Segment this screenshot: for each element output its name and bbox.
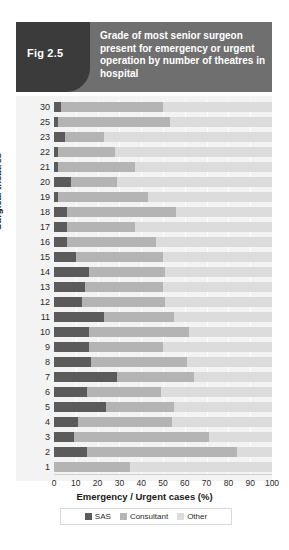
bar-segment-other [163, 342, 272, 352]
bar-row [54, 312, 272, 322]
bar-segment-sas [54, 342, 89, 352]
bar-segment-sas [54, 282, 85, 292]
y-axis-tick-label: 6 [26, 387, 50, 397]
bar-segment-sas [54, 312, 104, 322]
bar-segment-other [174, 402, 272, 412]
y-axis-tick-label: 5 [26, 402, 50, 412]
y-axis-tick-label: 14 [26, 267, 50, 277]
bar-row [54, 342, 272, 352]
y-axis-tick-label: 12 [26, 297, 50, 307]
bar-segment-other [170, 117, 272, 127]
y-axis-tick-label: 22 [26, 147, 50, 157]
figure-root: Fig 2.5 Grade of most senior surgeon pre… [0, 0, 289, 550]
bar-segment-other [104, 132, 272, 142]
y-axis-tick-label: 7 [26, 372, 50, 382]
legend-item[interactable]: Other [177, 512, 207, 521]
bar-segment-sas [54, 297, 82, 307]
bar-segment-consultant [67, 207, 176, 217]
bar-segment-consultant [78, 417, 172, 427]
legend-label: SAS [95, 512, 111, 521]
x-axis-tick-label: 90 [239, 478, 261, 488]
bar-segment-sas [54, 252, 76, 262]
bar-segment-sas [54, 237, 67, 247]
legend-swatch-icon [177, 513, 184, 520]
bar-segment-other [165, 297, 272, 307]
bar-row [54, 252, 272, 262]
y-axis-title: Surgical theatres [0, 153, 3, 230]
bar-segment-other [163, 252, 272, 262]
bar-row [54, 147, 272, 157]
y-axis-tick-label: 3 [26, 432, 50, 442]
bar-segment-other [135, 162, 272, 172]
plot-area [54, 100, 272, 474]
bar-row [54, 372, 272, 382]
bar-segment-sas [54, 207, 67, 217]
y-axis-tick-label: 16 [26, 237, 50, 247]
bar-segment-sas [54, 402, 106, 412]
bar-row [54, 387, 272, 397]
bar-segment-other [135, 222, 272, 232]
x-axis-tick-label: 20 [87, 478, 109, 488]
bar-segment-consultant [54, 462, 130, 472]
bar-row [54, 207, 272, 217]
legend-item[interactable]: SAS [85, 512, 111, 521]
y-axis-tick-label: 1 [26, 462, 50, 472]
bar-row [54, 402, 272, 412]
bar-segment-consultant [71, 177, 117, 187]
bar-segment-consultant [87, 447, 237, 457]
figure-tag-label: Fig 2.5 [27, 47, 63, 59]
bar-segment-consultant [76, 252, 163, 262]
bar-segment-other [117, 177, 272, 187]
bar-segment-consultant [58, 117, 169, 127]
bar-segment-other [156, 237, 272, 247]
y-axis-tick-label: 30 [26, 102, 50, 112]
bar-segment-sas [54, 447, 87, 457]
y-axis-tick-label: 13 [26, 282, 50, 292]
bar-row [54, 282, 272, 292]
bar-row [54, 447, 272, 457]
bar-row [54, 132, 272, 142]
bar-segment-consultant [61, 102, 163, 112]
x-axis-tick-label: 50 [152, 478, 174, 488]
bar-row [54, 237, 272, 247]
bar-segment-other [209, 432, 272, 442]
bar-segment-other [187, 357, 272, 367]
bar-segment-consultant [82, 297, 165, 307]
bar-segment-consultant [58, 162, 134, 172]
bar-segment-other [172, 417, 272, 427]
bar-row [54, 357, 272, 367]
bar-segment-other [174, 312, 272, 322]
bar-segment-sas [54, 177, 71, 187]
bar-segment-consultant [89, 267, 165, 277]
bar-row [54, 117, 272, 127]
bar-segment-other [189, 327, 272, 337]
y-axis-tick-label: 10 [26, 327, 50, 337]
bar-segment-other [165, 267, 272, 277]
bar-segment-sas [54, 222, 67, 232]
bar-row [54, 297, 272, 307]
y-axis-tick-label: 9 [26, 342, 50, 352]
y-axis-tick-label: 25 [26, 117, 50, 127]
x-axis-tick-label: 70 [196, 478, 218, 488]
bar-segment-other [161, 387, 272, 397]
legend-item[interactable]: Consultant [120, 512, 168, 521]
bar-segment-other [237, 447, 272, 457]
bar-segment-sas [54, 132, 65, 142]
bar-segment-sas [54, 357, 91, 367]
figure-header: Fig 2.5 Grade of most senior surgeon pre… [16, 22, 272, 92]
bar-segment-consultant [87, 387, 161, 397]
bar-row [54, 462, 272, 472]
bar-segment-sas [54, 387, 87, 397]
y-axis-tick-label: 2 [26, 447, 50, 457]
bar-segment-consultant [58, 147, 115, 157]
bar-segment-consultant [117, 372, 193, 382]
bar-segment-sas [54, 267, 89, 277]
bar-row [54, 102, 272, 112]
bar-segment-consultant [65, 132, 104, 142]
bar-row [54, 162, 272, 172]
bar-segment-sas [54, 432, 74, 442]
bar-segment-consultant [67, 222, 135, 232]
y-axis-tick-label: 20 [26, 177, 50, 187]
bar-row [54, 432, 272, 442]
y-axis-tick-label: 19 [26, 192, 50, 202]
